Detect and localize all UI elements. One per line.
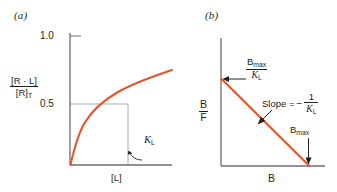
panel-b-y-intercept-numerator: Bmax: [246, 57, 267, 70]
panel-b-slope-numerator: 1: [304, 92, 318, 103]
panel-a-x-axis-title: [L]: [111, 172, 122, 183]
panel-b-y-axis-denominator: F: [199, 112, 208, 124]
panel-b-slope-denominator: KL: [304, 103, 318, 115]
panel-b-y-axis-numerator: B: [199, 99, 208, 112]
panel-a-y-axis-denominator-main: [R]: [16, 87, 28, 98]
panel-a-ytick-label-0: 0.5: [40, 98, 54, 109]
panel-a-y-axis-denominator: [R]T: [10, 87, 38, 99]
panel-a-kl-subscript: L: [151, 139, 155, 146]
panel-a-y-axis-numerator: [R · L]: [10, 76, 38, 87]
panel-a-saturation-curve: [71, 70, 173, 165]
panel-b-y-intercept-denominator: KL: [246, 70, 267, 82]
panel-a-y-axis-title: [R · L] [R]T: [10, 76, 38, 99]
panel-b-y-intercept-denominator-sub: L: [258, 74, 262, 81]
panel-b-x-intercept-label: Bmax: [290, 125, 309, 137]
panel-b-y-axis-title: B F: [199, 99, 208, 123]
panel-b-y-intercept-label: Bmax KL: [246, 57, 267, 81]
panel-b-y-intercept-numerator-sub: max: [253, 61, 266, 68]
panel-a-ytick-label-1: 1.0: [40, 30, 54, 41]
figure-container: (a) (b): [0, 0, 337, 192]
panel-a-kl-annotation: KL: [144, 134, 155, 147]
panel-b-x-intercept-sub: max: [296, 129, 309, 136]
panel-b-slope-fraction: 1 KL: [304, 92, 318, 115]
panel-b-slope-annotation: Slope = − 1 KL: [262, 92, 318, 115]
panel-b-slope-text: Slope =: [262, 98, 295, 109]
panel-b-slope-minus-sign: −: [297, 98, 303, 109]
panel-b-slope-denominator-sub: L: [313, 108, 317, 115]
panel-b-x-axis-title: B: [268, 172, 275, 184]
panel-a-kl-symbol: K: [144, 134, 151, 145]
panel-a-y-axis-denominator-sub: T: [28, 92, 32, 99]
